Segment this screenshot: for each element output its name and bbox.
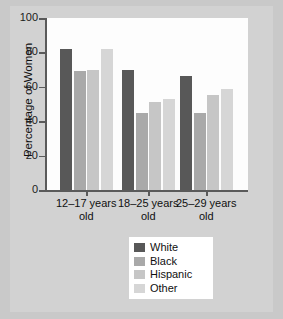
bar-group [60,18,113,190]
category-label-line: old [169,210,243,223]
bar-other-1 [101,49,113,190]
bar-other-3 [221,89,233,190]
x-axis-line [45,190,248,192]
y-axis-tick-label: 0 [4,184,38,195]
bar-white-1 [60,49,72,190]
y-axis-tick-labels: 100806040200 [0,0,38,319]
legend-label: Hispanic [150,269,192,280]
x-axis-tick-mark [148,191,150,196]
legend-label: Black [150,256,177,267]
bar-group [122,18,175,190]
y-axis-tick-label: 60 [4,81,38,92]
x-axis-tick-mark [206,191,208,196]
chart-figure: Percentage of Women 100806040200 12–17 y… [0,0,283,319]
bar-black-3 [194,113,206,190]
y-axis-tick-label: 40 [4,115,38,126]
legend-item-black: Black [134,255,209,269]
bar-black-2 [136,113,148,190]
chart-legend: WhiteBlackHispanicOther [129,237,213,299]
legend-swatch-icon [134,243,145,252]
bar-series-container [46,18,248,190]
x-axis-category-label: 25–29 yearsold [169,197,243,223]
bar-hispanic-1 [87,70,99,190]
x-axis-tick-mark [86,191,88,196]
legend-item-other: Other [134,282,209,296]
y-axis-tick-label: 80 [4,46,38,57]
legend-item-hispanic: Hispanic [134,268,209,282]
legend-swatch-icon [134,257,145,266]
legend-label: Other [150,283,178,294]
category-label-line: 25–29 years [169,197,243,210]
bar-group [180,18,233,190]
bar-hispanic-3 [207,95,219,190]
bar-other-2 [163,99,175,190]
y-axis-tick-label: 20 [4,150,38,161]
bar-black-1 [74,71,86,190]
y-axis-tick-label: 100 [4,12,38,23]
legend-item-white: White [134,241,209,255]
bar-white-2 [122,70,134,190]
legend-swatch-icon [134,284,145,293]
bar-hispanic-2 [149,102,161,190]
bar-white-3 [180,76,192,190]
legend-label: White [150,242,178,253]
legend-swatch-icon [134,270,145,279]
